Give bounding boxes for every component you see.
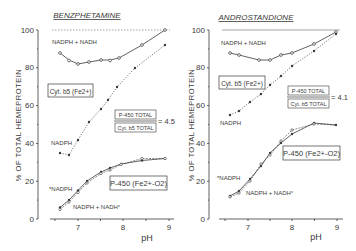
x-axis (219, 219, 343, 221)
label-p450-nadph: *NADPH (217, 175, 240, 181)
ratio-numerator: P-450 TOTAL (292, 88, 325, 94)
x-axis-label: pH (141, 233, 153, 243)
series-p450-nadph-nadh-markers (229, 123, 315, 198)
label-b5-nadph: NADPH (220, 120, 241, 126)
x-axis-label: pH (310, 232, 322, 242)
y-tick-0: 0 (30, 215, 35, 224)
x-tick-9: 9 (167, 223, 172, 232)
series-b5-nadph-nadh-line (60, 30, 165, 64)
series-p450-nadph-nadh-line (230, 124, 336, 197)
annotation-p450: P-450 (Fe2+-O2) (283, 149, 340, 158)
y-axis (207, 30, 209, 219)
annotation-p450: P-450 (Fe2+-O2) (110, 179, 167, 188)
label-p450-nadph-nadh: NADPH + NADH° (73, 204, 121, 210)
label-p450-nadph: *NADPH (49, 186, 72, 192)
x-tick-labels: 7 8 9 (246, 223, 340, 232)
panel-benzphetamine: BENZPHETAMINE % OF TOTAL HEMEPROTEIN 0 2… (14, 11, 175, 243)
y-tick-20: 20 (25, 177, 34, 186)
ratio-annotation: P-450 TOTAL Cyt. b5 TOTAL = 4.5 (114, 110, 175, 132)
annotation-b5: Cyt. b5 (Fe2+) (221, 80, 263, 88)
panel-title: BENZPHETAMINE (53, 11, 121, 20)
y-tick-60: 60 (196, 101, 205, 110)
x-tick-8: 8 (121, 223, 126, 232)
panel-title: ANDROSTANDIONE (218, 13, 295, 22)
series-b5-nadph-nadh-markers (59, 29, 167, 66)
y-tick-40: 40 (196, 139, 205, 148)
ratio-denominator: Cyt. b5 TOTAL (117, 125, 153, 131)
y-tick-20: 20 (196, 177, 205, 186)
y-tick-80: 80 (196, 63, 205, 72)
y-axis (36, 30, 38, 219)
ratio-numerator: P-450 TOTAL (119, 112, 152, 118)
x-axis (50, 219, 174, 221)
ratio-denominator: Cyt. b5 TOTAL (290, 101, 326, 107)
y-axis-label: % OF TOTAL HEMEPROTEIN (14, 69, 23, 181)
y-tick-80: 80 (25, 63, 34, 72)
y-tick-40: 40 (25, 139, 34, 148)
y-tick-100: 100 (192, 26, 206, 35)
figure: BENZPHETAMINE % OF TOTAL HEMEPROTEIN 0 2… (0, 0, 356, 251)
annotation-b5: Cyt. b5 (Fe2+) (50, 88, 92, 96)
label-p450-nadph-nadh: NADPH + NADH° (246, 190, 294, 196)
x-tick-8: 8 (290, 223, 295, 232)
y-tick-60: 60 (25, 101, 34, 110)
x-tick-7: 7 (246, 223, 251, 232)
panel-androstandione: ANDROSTANDIONE % OF TOTAL HEMEPROTEIN 0 … (187, 13, 348, 242)
y-tick-100: 100 (21, 26, 35, 35)
series-b5-nadph-markers (59, 44, 166, 156)
ratio-value: = 4.1 (331, 93, 348, 102)
x-tick-7: 7 (76, 223, 81, 232)
label-b5-nadph-nadh: NADPH + NADH (52, 39, 97, 45)
ratio-value: = 4.5 (158, 117, 175, 126)
ratio-annotation: P-450 TOTAL Cyt. b5 TOTAL = 4.1 (287, 86, 348, 108)
y-axis-label: % OF TOTAL HEMEPROTEIN (187, 69, 196, 181)
y-tick-0: 0 (201, 215, 206, 224)
x-tick-9: 9 (335, 223, 340, 232)
label-b5-nadph: NADPH (51, 140, 72, 146)
label-b5-nadph-nadh: NADPH + NADH (221, 40, 266, 46)
series-b5-nadph-line (60, 45, 165, 155)
x-tick-labels: 7 8 9 (76, 223, 172, 232)
